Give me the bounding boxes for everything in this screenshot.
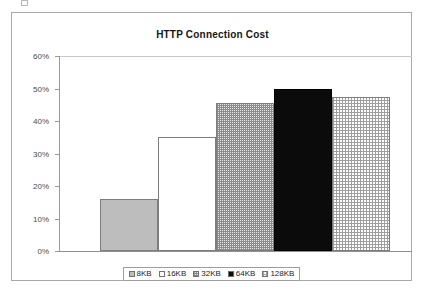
x-axis-line <box>59 251 412 252</box>
tick-label-0: 0% <box>37 247 49 256</box>
bar-group <box>60 56 412 251</box>
chart-frame: HTTP Connection Cost 60% 50% 40% 30% <box>11 12 412 281</box>
tick-label-40: 40% <box>33 117 49 126</box>
legend-entry-128kb[interactable]: 128KB <box>262 270 294 278</box>
plot-inner: 60% 50% 40% 30% 20% 10% 0% <box>59 56 412 251</box>
bar-16kb[interactable] <box>158 137 216 251</box>
white-swatch-icon <box>159 271 165 277</box>
chart-title: HTTP Connection Cost <box>12 29 413 40</box>
legend-label-128kb: 128KB <box>270 270 294 278</box>
legend-entry-64kb[interactable]: 64KB <box>228 270 256 278</box>
legend-label-8kb: 8KB <box>137 270 152 278</box>
plot-area: 60% 50% 40% 30% 20% 10% 0% <box>59 56 412 263</box>
tick-label-20: 20% <box>33 182 49 191</box>
bar-32kb[interactable] <box>216 103 274 251</box>
legend-entry-16kb[interactable]: 16KB <box>159 270 187 278</box>
bar-64kb[interactable] <box>274 89 332 252</box>
chart-legend: 8KB 16KB 32KB 64KB 128KB <box>123 267 301 281</box>
tick-label-50: 50% <box>33 84 49 93</box>
checker-mid-swatch-icon <box>193 271 199 277</box>
legend-label-16kb: 16KB <box>167 270 187 278</box>
tick-label-30: 30% <box>33 149 49 158</box>
legend-label-64kb: 64KB <box>236 270 256 278</box>
legend-label-32kb: 32KB <box>201 270 221 278</box>
legend-entry-8kb[interactable]: 8KB <box>129 270 152 278</box>
solid-gray-swatch-icon <box>129 271 135 277</box>
tick-label-60: 60% <box>33 52 49 61</box>
scan-artifact <box>21 0 28 6</box>
bar-128kb[interactable] <box>332 97 390 251</box>
chart-screenshot: HTTP Connection Cost 60% 50% 40% 30% <box>0 0 422 288</box>
solid-black-swatch-icon <box>228 271 234 277</box>
bar-8kb[interactable] <box>100 199 158 251</box>
legend-entry-32kb[interactable]: 32KB <box>193 270 221 278</box>
checker-light-swatch-icon <box>262 271 268 277</box>
tick-label-10: 10% <box>33 214 49 223</box>
